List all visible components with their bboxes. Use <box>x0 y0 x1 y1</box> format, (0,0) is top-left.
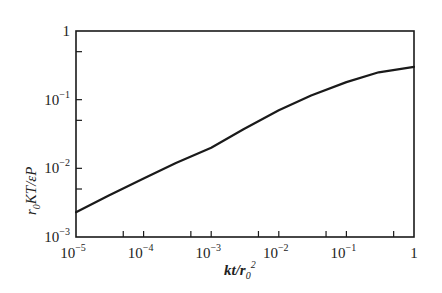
x-tick-label: 10−3 <box>195 242 221 261</box>
y-tick-label: 10−2 <box>44 157 70 176</box>
y-tick-label: 1 <box>63 23 71 39</box>
plot-frame <box>76 31 414 237</box>
x-tick-label: 1 <box>410 245 418 261</box>
x-axis-label-sub: 0 <box>246 270 251 281</box>
x-tick-label: 10−2 <box>263 242 289 261</box>
x-tick-label: 10−1 <box>331 242 357 261</box>
data-curve <box>76 67 414 212</box>
x-axis-label-sup: 2 <box>251 259 256 270</box>
x-axis-label-main: kt/r <box>224 262 246 278</box>
y-axis-label: r0KT/εP <box>23 167 42 215</box>
y-axis-label-main: KT/εP <box>23 167 39 206</box>
minor-ticks <box>76 52 394 237</box>
y-tick-label: 10−3 <box>44 226 70 245</box>
major-ticks <box>76 100 346 237</box>
chart: 10−510−410−310−210−11 10−310−210−11 kt/r… <box>0 0 442 293</box>
x-tick-label: 10−4 <box>128 242 154 261</box>
x-tick-label: 10−5 <box>60 242 86 261</box>
y-tick-label: 10−1 <box>44 89 70 108</box>
y-tick-labels: 10−310−210−11 <box>44 23 70 245</box>
x-axis-label: kt/r02 <box>224 259 256 281</box>
x-tick-labels: 10−510−410−310−210−11 <box>60 242 418 261</box>
